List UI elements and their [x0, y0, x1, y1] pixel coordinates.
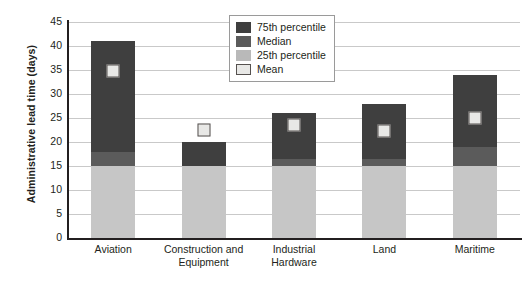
- x-axis-label: Industrial Hardware: [249, 243, 339, 268]
- bar: [453, 75, 497, 238]
- y-tick-label: 35: [32, 63, 62, 75]
- bar-chart-figure: Administrative lead time (days) 45403530…: [0, 0, 531, 294]
- legend-label: Mean: [257, 63, 283, 75]
- y-tick-label: 45: [32, 15, 62, 27]
- legend-item: Median: [236, 34, 326, 48]
- y-tick-label: 30: [32, 87, 62, 99]
- y-axis-tick-labels: 454035302520151050: [30, 22, 62, 238]
- bar-segment: [362, 159, 406, 166]
- y-tick-label: 20: [32, 135, 62, 147]
- bar: [272, 113, 316, 238]
- y-tick-label: 25: [32, 111, 62, 123]
- bar: [362, 104, 406, 238]
- x-axis-label: Construction and Equipment: [158, 243, 248, 268]
- bar-segment: [272, 166, 316, 238]
- legend-swatch-icon: [236, 64, 251, 75]
- bar-segment: [362, 166, 406, 238]
- y-axis-line: [67, 20, 69, 240]
- y-tick-label: 0: [32, 231, 62, 243]
- x-axis-label: Land: [339, 243, 429, 256]
- bar-segment: [91, 152, 135, 166]
- legend-swatch-icon: [236, 50, 251, 61]
- y-tick-label: 15: [32, 159, 62, 171]
- mean-marker: [107, 65, 120, 78]
- mean-marker: [378, 125, 391, 138]
- y-tick-label: 5: [32, 207, 62, 219]
- legend-item: 25th percentile: [236, 48, 326, 62]
- mean-marker: [288, 119, 301, 132]
- legend-swatch-icon: [236, 22, 251, 33]
- bar: [182, 142, 226, 238]
- legend-label: 75th percentile: [257, 21, 326, 33]
- bar-segment: [453, 147, 497, 166]
- x-axis-line: [67, 238, 522, 240]
- legend-swatch-icon: [236, 36, 251, 47]
- y-tick-label: 10: [32, 183, 62, 195]
- bar-segment: [91, 41, 135, 151]
- x-axis-label: Maritime: [430, 243, 520, 256]
- bar-segment: [453, 166, 497, 238]
- legend-label: 25th percentile: [257, 49, 326, 61]
- legend-label: Median: [257, 35, 291, 47]
- bar-segment: [272, 159, 316, 166]
- mean-marker: [468, 112, 481, 125]
- figure-caption: [10, 285, 525, 294]
- bar-segment: [91, 166, 135, 238]
- y-tick-label: 40: [32, 39, 62, 51]
- x-axis-category-labels: AviationConstruction and EquipmentIndust…: [68, 243, 520, 277]
- legend-item: Mean: [236, 62, 326, 76]
- bar-segment: [182, 166, 226, 238]
- chart-legend: 75th percentileMedian25th percentileMean: [229, 15, 335, 82]
- x-axis-label: Aviation: [68, 243, 158, 256]
- bar-segment: [182, 142, 226, 166]
- legend-item: 75th percentile: [236, 20, 326, 34]
- mean-marker: [197, 124, 210, 137]
